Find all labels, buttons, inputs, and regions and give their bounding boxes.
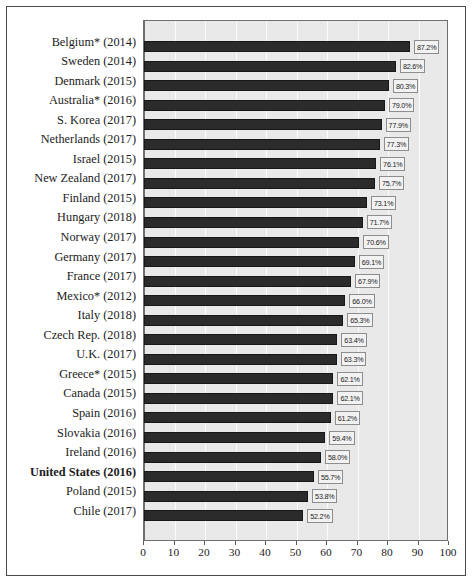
- bar-value-label: 65.3%: [347, 313, 372, 327]
- bar: [144, 276, 351, 287]
- bar: [144, 80, 389, 91]
- y-axis-label: Denmark (2015): [4, 72, 136, 92]
- y-axis-label: Chile (2017): [4, 502, 136, 522]
- bar: [144, 100, 385, 111]
- x-tick-mark: [326, 541, 327, 545]
- bar: [144, 237, 359, 248]
- bar-row: 80.3%: [144, 76, 448, 96]
- y-axis-label: U.K. (2017): [4, 345, 136, 365]
- y-axis-label: Finland (2015): [4, 189, 136, 209]
- bar-value-label: 62.1%: [337, 391, 362, 405]
- bar-value-label: 77.9%: [386, 118, 411, 132]
- x-tick-mark: [296, 541, 297, 545]
- bar-value-label: 70.6%: [363, 235, 388, 249]
- bar-row: 70.6%: [144, 233, 448, 253]
- bar-row: 62.1%: [144, 369, 448, 389]
- y-axis-label: Czech Rep. (2018): [4, 326, 136, 346]
- bar-value-label: 62.1%: [337, 372, 362, 386]
- y-axis-category-labels: Belgium* (2014)Sweden (2014)Denmark (201…: [6, 20, 140, 541]
- x-tick-label: 70: [340, 546, 374, 558]
- bar: [144, 217, 363, 228]
- y-axis-label: Mexico* (2012): [4, 287, 136, 307]
- bar: [144, 158, 376, 169]
- bar: [144, 256, 355, 267]
- bar-row: 82.6%: [144, 57, 448, 77]
- y-axis-label: Belgium* (2014): [4, 33, 136, 53]
- bar-value-label: 75.7%: [379, 176, 404, 190]
- plot-panel: 87.2%82.6%80.3%79.0%77.9%77.3%76.1%75.7%…: [143, 20, 448, 541]
- bar-row: 55.7%: [144, 467, 448, 487]
- y-axis-label: France (2017): [4, 267, 136, 287]
- x-tick-mark: [204, 541, 205, 545]
- y-axis-label: S. Korea (2017): [4, 111, 136, 131]
- x-tick-mark: [387, 541, 388, 545]
- y-axis-label: New Zealand (2017): [4, 169, 136, 189]
- y-axis-label: Greece* (2015): [4, 365, 136, 385]
- bar: [144, 315, 343, 326]
- x-axis: 0102030405060708090100: [143, 541, 448, 567]
- bar-value-label: 79.0%: [389, 98, 414, 112]
- bar: [144, 295, 345, 306]
- y-axis-label: Italy (2018): [4, 306, 136, 326]
- x-tick-label: 80: [370, 546, 404, 558]
- y-axis-label: Germany (2017): [4, 248, 136, 268]
- bar: [144, 119, 382, 130]
- bar: [144, 139, 380, 150]
- x-tick-label: 100: [431, 546, 465, 558]
- y-axis-label: Norway (2017): [4, 228, 136, 248]
- bar-row: 53.8%: [144, 487, 448, 507]
- x-tick-label: 40: [248, 546, 282, 558]
- y-axis-label: Ireland (2016): [4, 443, 136, 463]
- x-tick-label: 30: [218, 546, 252, 558]
- bar-value-label: 61.2%: [335, 411, 360, 425]
- bar-row: 79.0%: [144, 96, 448, 116]
- bar: [144, 354, 337, 365]
- bar-rows: 87.2%82.6%80.3%79.0%77.9%77.3%76.1%75.7%…: [144, 21, 448, 541]
- y-axis-label: Australia* (2016): [4, 91, 136, 111]
- x-tick-mark: [174, 541, 175, 545]
- bar-row: 62.1%: [144, 389, 448, 409]
- bar: [144, 197, 367, 208]
- bar-row: 67.9%: [144, 272, 448, 292]
- x-tick-label: 90: [401, 546, 435, 558]
- bar-row: 76.1%: [144, 154, 448, 174]
- bar-value-label: 66.0%: [349, 294, 374, 308]
- bar-value-label: 59.4%: [329, 431, 354, 445]
- bar: [144, 393, 333, 404]
- y-axis-label: Israel (2015): [4, 150, 136, 170]
- x-tick-label: 50: [279, 546, 313, 558]
- bar-row: 77.9%: [144, 115, 448, 135]
- x-tick-mark: [265, 541, 266, 545]
- bar-row: 65.3%: [144, 311, 448, 331]
- x-tick-mark: [357, 541, 358, 545]
- chart-plot-area: 87.2%82.6%80.3%79.0%77.9%77.3%76.1%75.7%…: [143, 20, 448, 541]
- y-axis-label: Canada (2015): [4, 384, 136, 404]
- x-tick-label: 0: [126, 546, 160, 558]
- y-axis-label: United States (2016): [4, 463, 136, 483]
- bar: [144, 432, 325, 443]
- bar-value-label: 73.1%: [371, 196, 396, 210]
- bar-value-label: 80.3%: [393, 79, 418, 93]
- x-tick-label: 20: [187, 546, 221, 558]
- bar: [144, 178, 375, 189]
- bar-row: 66.0%: [144, 291, 448, 311]
- y-axis-label: Spain (2016): [4, 404, 136, 424]
- bar-row: 75.7%: [144, 174, 448, 194]
- bar-value-label: 87.2%: [414, 40, 439, 54]
- bar-value-label: 63.3%: [341, 352, 366, 366]
- bar-value-label: 52.2%: [307, 509, 332, 523]
- bar: [144, 373, 333, 384]
- bar-row: 69.1%: [144, 252, 448, 272]
- bar: [144, 510, 303, 521]
- bar: [144, 491, 308, 502]
- bar-value-label: 58.0%: [325, 450, 350, 464]
- bar-value-label: 82.6%: [400, 59, 425, 73]
- bar: [144, 471, 314, 482]
- bar-value-label: 69.1%: [359, 255, 384, 269]
- figure: Belgium* (2014)Sweden (2014)Denmark (201…: [0, 0, 474, 584]
- bar-value-label: 55.7%: [318, 470, 343, 484]
- bar-row: 63.4%: [144, 330, 448, 350]
- bar-row: 71.7%: [144, 213, 448, 233]
- bar-value-label: 63.4%: [341, 333, 366, 347]
- x-tick-label: 60: [309, 546, 343, 558]
